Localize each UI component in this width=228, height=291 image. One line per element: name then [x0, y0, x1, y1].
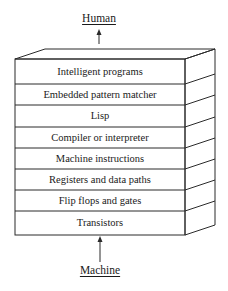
- layer-divider-side: [185, 159, 215, 169]
- layer-compiler-or-interpreter: Compiler or interpreter: [15, 133, 185, 144]
- layer-divider-side: [185, 138, 215, 148]
- layer-lisp: Lisp: [15, 111, 185, 122]
- layer-divider-side: [185, 180, 215, 190]
- stack-box-drawing: [0, 0, 228, 291]
- machine-label: Machine: [80, 265, 120, 277]
- layer-divider-side: [185, 201, 215, 211]
- stack-top-face: [15, 49, 215, 59]
- layer-registers-and-data-paths: Registers and data paths: [15, 175, 185, 186]
- arrowhead-icon: [97, 29, 102, 35]
- layer-divider-side: [185, 74, 215, 84]
- layer-machine-instructions: Machine instructions: [15, 154, 185, 165]
- layer-flip-flops-and-gates: Flip flops and gates: [15, 196, 185, 207]
- layer-divider-side: [185, 117, 215, 127]
- stack-side-face: [185, 49, 215, 235]
- layered-stack-diagram: Human Machine Intelligent programs Embed…: [0, 0, 228, 291]
- human-label: Human: [82, 13, 116, 25]
- stack-front-face: [15, 59, 185, 235]
- layer-embedded-pattern-matcher: Embedded pattern matcher: [15, 90, 185, 101]
- arrowhead-icon: [98, 236, 103, 242]
- layer-divider-side: [185, 95, 215, 105]
- layer-transistors: Transistors: [15, 218, 185, 229]
- layer-intelligent-programs: Intelligent programs: [15, 67, 185, 78]
